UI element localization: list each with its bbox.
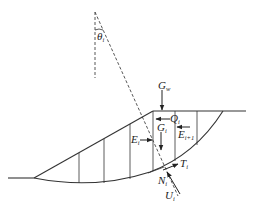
slip-surface-arc	[34, 111, 223, 183]
g-label: Gi	[157, 121, 167, 134]
e-right-label: Ei+1	[177, 128, 194, 141]
t-label: Ti	[180, 157, 188, 170]
gw-label: Gw	[158, 79, 171, 92]
e-left-label: Ei	[130, 133, 140, 146]
base-shear-line	[148, 167, 164, 173]
q-label: Qi	[170, 112, 180, 125]
radius-dashed-line	[95, 12, 178, 196]
n-label: Ni	[157, 174, 167, 187]
slope-stability-diagram: θi Gw Qi Gi Ei Ei+1 Ti Ni Ui	[0, 0, 259, 212]
u-label: Ui	[165, 189, 175, 202]
theta-label: θi	[97, 30, 104, 43]
